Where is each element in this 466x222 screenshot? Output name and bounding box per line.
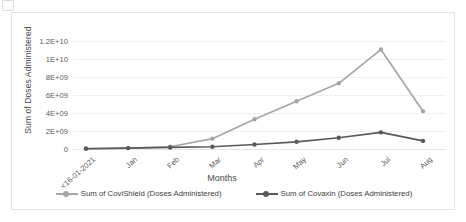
legend-label: Sum of Covaxin (Doses Administered) — [281, 189, 413, 198]
chart-legend: Sum of CoviShield (Doses Administered)Su… — [12, 189, 456, 198]
document-corner-mark — [2, 0, 14, 11]
legend-label: Sum of CoviShield (Doses Administered) — [81, 189, 222, 198]
plot-area: Sum of Doses Administered 02E+094E+096E+… — [12, 13, 454, 209]
legend-swatch-icon — [256, 190, 278, 198]
legend-swatch-icon — [56, 190, 78, 198]
x-axis-title: Months — [162, 173, 282, 183]
chart-container: Sum of Doses Administered 02E+094E+096E+… — [11, 12, 455, 210]
legend-item-covishield[interactable]: Sum of CoviShield (Doses Administered) — [56, 189, 222, 198]
legend-item-covaxin[interactable]: Sum of Covaxin (Doses Administered) — [256, 189, 413, 198]
